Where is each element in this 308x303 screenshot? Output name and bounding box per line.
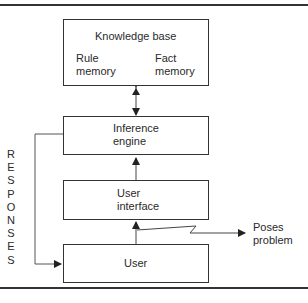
inference-engine-box: Inference engine xyxy=(63,116,209,155)
knowledge-base-box: Knowledge base Rule memory Fact memory xyxy=(63,19,209,86)
responses-label: R E S P O N S E S xyxy=(4,148,18,267)
user-interface-line2: interface xyxy=(117,200,159,213)
responses-letter: R xyxy=(4,148,18,161)
responses-letter: E xyxy=(4,161,18,174)
rule-memory-line2: memory xyxy=(76,65,116,78)
responses-letter: E xyxy=(4,240,18,253)
fact-memory-line1: Fact xyxy=(155,52,176,65)
responses-letter: S xyxy=(4,227,18,240)
poses-problem-line1: Poses xyxy=(253,221,284,234)
responses-letter: O xyxy=(4,201,18,214)
inference-engine-line1: Inference xyxy=(113,122,159,135)
user-box: User xyxy=(63,244,209,283)
inference-engine-line2: engine xyxy=(113,135,146,148)
responses-letter: S xyxy=(4,254,18,267)
rule-memory-line1: Rule xyxy=(76,52,99,65)
responses-letter: P xyxy=(4,188,18,201)
user-interface-line1: User xyxy=(117,187,140,200)
knowledge-base-title: Knowledge base xyxy=(95,30,176,43)
user-label: User xyxy=(124,257,147,270)
user-interface-box: User interface xyxy=(63,180,209,220)
poses-problem-line2: problem xyxy=(253,234,293,247)
responses-letter: S xyxy=(4,174,18,187)
responses-letter: N xyxy=(4,214,18,227)
fact-memory-line2: memory xyxy=(155,65,195,78)
